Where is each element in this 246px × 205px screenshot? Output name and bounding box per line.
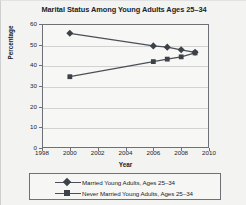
chart-title: Marital Status Among Young Adults Ages 2… — [1, 5, 246, 14]
plot-area — [42, 24, 209, 148]
legend-marker-square-icon — [54, 188, 82, 198]
x-tick-mark — [70, 148, 71, 151]
gridline — [43, 66, 208, 67]
x-tick-mark — [42, 148, 43, 151]
y-tick-label: 30 — [1, 83, 37, 89]
chart-page: Marital Status Among Young Adults Ages 2… — [0, 0, 246, 205]
y-tick-label: 20 — [1, 104, 37, 110]
x-tick-mark — [98, 148, 99, 151]
x-tick-mark — [153, 148, 154, 151]
y-tick-label: 40 — [1, 62, 37, 68]
y-tick-label: 50 — [1, 42, 37, 48]
y-tick-label: 60 — [1, 21, 37, 27]
gridline — [43, 108, 208, 109]
legend-label-never-married: Never Married Young Adults, Ages 25–34 — [82, 190, 193, 197]
x-tick-mark — [209, 148, 210, 151]
legend-marker-diamond-icon — [54, 177, 82, 187]
y-tick-label: 10 — [1, 124, 37, 130]
legend-label-married: Married Young Adults, Ages 25–34 — [82, 179, 175, 186]
gridline — [43, 87, 208, 88]
gridline — [43, 128, 208, 129]
x-tick-mark — [126, 148, 127, 151]
x-tick-mark — [181, 148, 182, 151]
x-axis-label: Year — [42, 161, 209, 168]
legend-entry-never-married: Never Married Young Adults, Ages 25–34 — [30, 187, 220, 199]
gridline — [43, 46, 208, 47]
chart-legend: Married Young Adults, Ages 25–34 Never M… — [29, 173, 221, 200]
